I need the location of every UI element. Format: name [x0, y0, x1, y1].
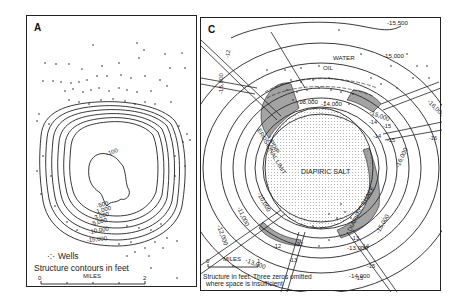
wells-dots — [36, 42, 191, 279]
fault-block-label: -16 — [429, 135, 437, 141]
scale-end: 2 — [143, 275, 147, 281]
panel-a-scale-bar — [41, 281, 145, 284]
contour-label: -13,000 — [245, 256, 268, 270]
contour-label: -11,000 — [236, 205, 251, 227]
fault-block-label: -13 — [289, 257, 297, 263]
fault-block-label: -15 — [355, 275, 363, 281]
fault-block-label: -14 — [373, 133, 381, 139]
contour-label: -15,500 — [387, 19, 409, 26]
fault-block-label: -14 — [361, 243, 369, 249]
fault-block-label: -15 — [387, 137, 395, 143]
oil-label: OIL — [323, 64, 334, 71]
contour-label: -15,000 — [383, 52, 405, 59]
contour-label-inner: -14,000 — [321, 100, 343, 107]
fault-block-label: -15 — [367, 263, 375, 269]
fault-block-label: -12 — [295, 241, 303, 247]
fault-block-label: -12 — [273, 243, 281, 249]
scale-start: 0 — [38, 275, 42, 281]
fault-block-label: -12 — [224, 49, 231, 58]
diapiric-salt-label: DIAPIRIC SALT — [301, 168, 351, 175]
fault-block-label: -13 — [351, 235, 359, 241]
structure-note-line-1: Structure in feet. Three zeros omitted — [203, 273, 312, 280]
contour-label-inner: -13,000 — [297, 98, 319, 105]
contour-label: -16,000 — [426, 98, 442, 118]
contour-label: -15,000 — [217, 72, 224, 94]
scale-unit: MILES — [83, 273, 101, 279]
panel-c-map-graphic: -15,500 -15,000 -16,000 -16,000 -15,000 … — [201, 18, 442, 292]
fault-block-label: -15 — [383, 123, 391, 129]
contours-legend-label: Structure contours in feet — [34, 263, 129, 273]
contour-label: -15,000 — [87, 235, 108, 243]
water-label: WATER — [333, 54, 355, 61]
contour-label: -12,000 — [216, 224, 230, 247]
panel-a-structure-contour-map: A -100 -500 -1,000 -3,000 -5,000 -10,000… — [26, 15, 197, 287]
panel-c-cross-structure-map: C — [200, 17, 441, 291]
wells-legend-label: Wells — [58, 251, 79, 261]
fault-block-label: -14 — [369, 119, 377, 125]
scale-unit: MILES — [223, 256, 241, 262]
panel-a-map-graphic: -100 -500 -1,000 -3,000 -5,000 -10,000 -… — [27, 16, 198, 288]
wells-legend-symbol: ·:· — [47, 251, 55, 261]
structure-note-line-2: where space is insufficient — [206, 280, 283, 287]
